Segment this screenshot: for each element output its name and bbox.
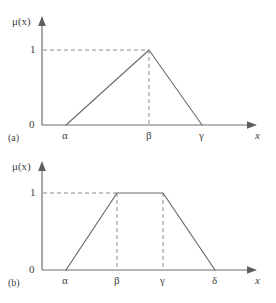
subfigure-caption-b: (b) [8, 278, 20, 288]
triangular-plot-svg [0, 0, 276, 151]
x-tick-label-beta: β [114, 275, 120, 286]
subfigure-caption-a: (a) [8, 133, 19, 143]
x-tick-label-gamma: γ [199, 130, 204, 141]
trapezoidal-plot-svg [0, 151, 276, 303]
x-tick-label-delta: δ [212, 275, 217, 286]
figure-container: μ(x) 1 0 α β γ x (a) μ(x) 1 [0, 0, 276, 303]
y-tick-label-one: 1 [30, 44, 36, 55]
x-tick-label-beta: β [146, 130, 152, 141]
x-axis-label: x [255, 275, 260, 286]
y-tick-label-zero: 0 [29, 264, 35, 275]
trapezoidal-membership-curve [66, 193, 215, 270]
triangular-membership-curve [66, 50, 202, 125]
x-tick-label-alpha: α [62, 130, 68, 141]
x-tick-label-alpha: α [62, 275, 68, 286]
x-axis-arrowhead [247, 121, 257, 129]
y-axis-arrowhead [38, 161, 46, 171]
y-axis-label: μ(x) [12, 161, 31, 172]
x-tick-label-gamma: γ [160, 275, 165, 286]
y-tick-label-one: 1 [30, 187, 36, 198]
y-axis-arrowhead [38, 16, 46, 26]
y-tick-label-zero: 0 [29, 119, 35, 130]
chart-trapezoidal-membership: μ(x) 1 0 α β γ δ x (b) [0, 151, 276, 302]
x-axis-arrowhead [247, 266, 257, 274]
x-axis-label: x [255, 130, 260, 141]
chart-triangular-membership: μ(x) 1 0 α β γ x (a) [0, 0, 276, 151]
y-axis-label: μ(x) [12, 16, 31, 27]
